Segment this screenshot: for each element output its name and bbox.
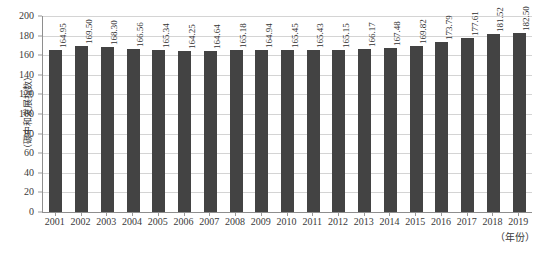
bar-value-label: 168.30 xyxy=(111,20,120,45)
bar[interactable]: 165.34 xyxy=(152,50,165,212)
x-tick-label: 2014 xyxy=(379,216,399,227)
bar[interactable]: 164.95 xyxy=(49,50,62,212)
x-tick-mark xyxy=(364,213,365,216)
y-tick-label: 80 xyxy=(24,129,34,139)
bar[interactable]: 165.15 xyxy=(332,50,345,212)
bar[interactable]: 182.50 xyxy=(513,33,526,212)
bar[interactable]: 168.30 xyxy=(101,47,114,212)
x-tick-label: 2004 xyxy=(122,216,142,227)
x-tick-mark xyxy=(389,213,390,216)
x-tick-label: 2009 xyxy=(251,216,271,227)
bar[interactable]: 164.25 xyxy=(178,51,191,212)
bar-value-label: 165.43 xyxy=(317,23,326,48)
x-tick-label: 2006 xyxy=(174,216,194,227)
x-tick-mark xyxy=(81,213,82,216)
bar-value-label: 165.45 xyxy=(291,23,300,48)
x-tick-label: 2017 xyxy=(457,216,477,227)
x-tick-label: 2003 xyxy=(96,216,116,227)
x-tick-label: 2018 xyxy=(482,216,502,227)
x-tick-mark xyxy=(209,213,210,216)
x-axis-ticks: 2001200220032004200520062007200820092010… xyxy=(42,213,531,231)
bar-value-label: 166.17 xyxy=(368,22,377,47)
y-tick-label: 120 xyxy=(19,89,34,99)
bar-value-label: 173.79 xyxy=(445,15,454,40)
bar-value-label: 169.82 xyxy=(420,19,429,44)
x-tick-mark xyxy=(415,213,416,216)
x-tick-label: 2016 xyxy=(431,216,451,227)
bar[interactable]: 165.45 xyxy=(281,50,294,212)
x-tick-mark xyxy=(235,213,236,216)
x-axis-title: （年份） xyxy=(495,232,535,244)
x-tick-mark xyxy=(184,213,185,216)
x-tick-label: 2007 xyxy=(199,216,219,227)
bar[interactable]: 169.50 xyxy=(75,46,88,212)
y-tick-label: 100 xyxy=(19,109,34,119)
bar[interactable]: 166.17 xyxy=(358,49,371,212)
bar[interactable]: 165.43 xyxy=(307,50,320,212)
y-tick-label: 20 xyxy=(24,187,34,197)
y-tick-label: 200 xyxy=(19,11,34,21)
bar[interactable]: 164.64 xyxy=(204,51,217,212)
bar[interactable]: 173.79 xyxy=(435,42,448,212)
bar[interactable]: 165.18 xyxy=(230,50,243,212)
x-tick-label: 2008 xyxy=(225,216,245,227)
bar-chart: （碳中和发展指数） 020406080100120140160180200 16… xyxy=(0,0,549,254)
y-tick-label: 160 xyxy=(19,50,34,60)
y-tick-label: 180 xyxy=(19,31,34,41)
bar-value-label: 177.61 xyxy=(471,11,480,36)
x-tick-mark xyxy=(158,213,159,216)
x-tick-label: 2002 xyxy=(71,216,91,227)
bar-value-label: 181.52 xyxy=(497,7,506,32)
bar-series: 164.95169.50168.30166.56165.34164.25164.… xyxy=(43,16,532,212)
x-tick-mark xyxy=(55,213,56,216)
x-tick-mark xyxy=(132,213,133,216)
x-tick-label: 2012 xyxy=(328,216,348,227)
y-tick-label: 60 xyxy=(24,148,34,158)
x-tick-mark xyxy=(287,213,288,216)
bar[interactable]: 164.94 xyxy=(255,50,268,212)
bar[interactable]: 167.48 xyxy=(384,48,397,212)
bar-value-label: 169.50 xyxy=(85,19,94,44)
x-tick-label: 2001 xyxy=(45,216,65,227)
bar-value-label: 182.50 xyxy=(523,6,532,31)
bar-value-label: 165.34 xyxy=(162,23,171,48)
bar[interactable]: 166.56 xyxy=(127,49,140,212)
x-tick-label: 2015 xyxy=(405,216,425,227)
x-tick-mark xyxy=(441,213,442,216)
x-tick-mark xyxy=(261,213,262,216)
bar-value-label: 165.15 xyxy=(342,23,351,48)
bar-value-label: 166.56 xyxy=(136,22,145,47)
x-tick-label: 2019 xyxy=(508,216,528,227)
y-tick-label: 0 xyxy=(29,207,34,217)
x-tick-mark xyxy=(312,213,313,216)
plot-area: 164.95169.50168.30166.56165.34164.25164.… xyxy=(42,16,532,213)
bar[interactable]: 177.61 xyxy=(461,38,474,212)
x-tick-mark xyxy=(106,213,107,216)
x-tick-label: 2011 xyxy=(302,216,322,227)
bar-value-label: 164.95 xyxy=(59,24,68,49)
bar-value-label: 164.94 xyxy=(265,24,274,49)
x-tick-label: 2005 xyxy=(148,216,168,227)
bar-value-label: 164.25 xyxy=(188,24,197,49)
x-tick-mark xyxy=(518,213,519,216)
y-tick-label: 40 xyxy=(24,168,34,178)
bar-value-label: 165.18 xyxy=(239,23,248,48)
x-tick-mark xyxy=(492,213,493,216)
x-tick-label: 2013 xyxy=(354,216,374,227)
y-tick-label: 140 xyxy=(19,70,34,80)
y-axis-ticks: 020406080100120140160180200 xyxy=(0,0,42,254)
x-tick-mark xyxy=(467,213,468,216)
bar[interactable]: 169.82 xyxy=(410,46,423,212)
bar-value-label: 164.64 xyxy=(214,24,223,49)
bar-value-label: 167.48 xyxy=(394,21,403,46)
x-tick-mark xyxy=(338,213,339,216)
bar[interactable]: 181.52 xyxy=(487,34,500,212)
x-tick-label: 2010 xyxy=(277,216,297,227)
